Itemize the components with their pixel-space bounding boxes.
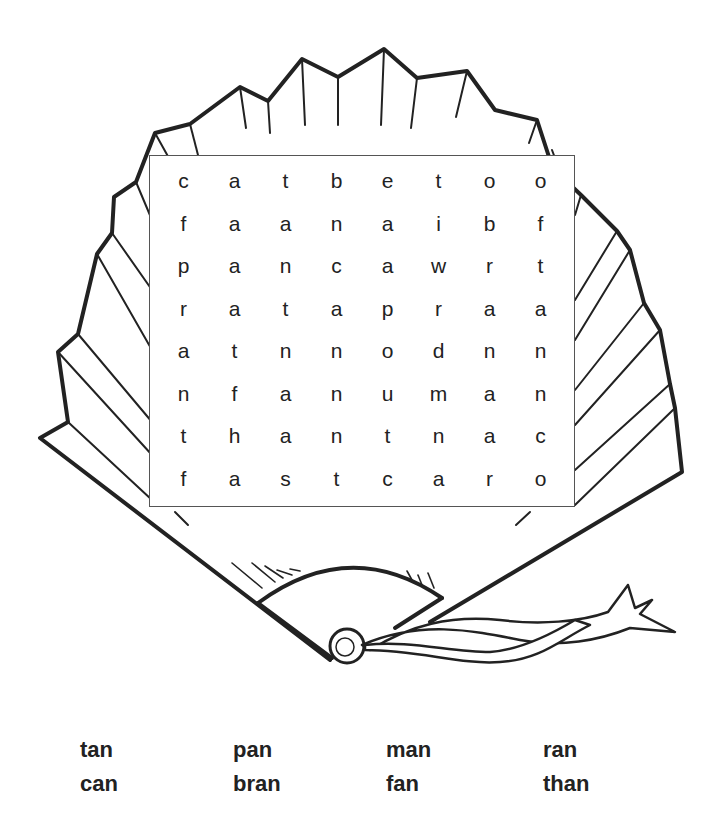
grid-cell: n [515,373,566,416]
grid-cell: a [362,203,413,246]
word-item: than [543,770,643,798]
grid-cell: r [464,458,515,501]
grid-cell: o [362,330,413,373]
grid-cell: h [209,415,260,458]
grid-cell: t [158,415,209,458]
grid-cell: a [209,160,260,203]
grid-cell: f [158,458,209,501]
grid-cell: a [464,373,515,416]
grid-cell: n [464,330,515,373]
grid-cell: f [158,203,209,246]
grid-cell: f [209,373,260,416]
grid-cell: r [464,245,515,288]
grid-cell: d [413,330,464,373]
grid-cell: r [158,288,209,331]
grid-cell: a [209,458,260,501]
grid-cell: o [464,160,515,203]
grid-cell: n [158,373,209,416]
word-item: ran [543,736,643,764]
grid-cell: p [362,288,413,331]
grid-cell: n [311,330,362,373]
grid-cell: b [311,160,362,203]
grid-cell: t [362,415,413,458]
grid-cell: t [209,330,260,373]
grid-cell: a [413,458,464,501]
word-item: man [386,736,543,764]
grid-cell: a [311,288,362,331]
grid-cell: a [260,415,311,458]
grid-cell: o [515,458,566,501]
grid-cell: c [362,458,413,501]
grid-cell: c [515,415,566,458]
word-search-grid: catbetoofaanaibfpancawrtratapraaatnnodnn… [149,155,575,507]
grid-cell: f [515,203,566,246]
grid-cell: a [362,245,413,288]
grid-cell: a [260,373,311,416]
grid-cell: n [515,330,566,373]
grid-cell: n [311,203,362,246]
grid-cell: t [515,245,566,288]
grid-cell: a [158,330,209,373]
grid-cell: o [515,160,566,203]
grid-cell: c [158,160,209,203]
grid-cell: c [311,245,362,288]
grid-cell: t [260,288,311,331]
grid-cell: b [464,203,515,246]
grid-cell: s [260,458,311,501]
grid-cell: n [311,373,362,416]
grid-cell: n [260,245,311,288]
grid-cell: a [209,245,260,288]
grid-cell: e [362,160,413,203]
grid-cell: t [260,160,311,203]
word-item: pan [233,736,386,764]
grid-cell: u [362,373,413,416]
grid-cell: a [209,203,260,246]
word-item: bran [233,770,386,798]
word-list: tan pan man ran can bran fan than [80,736,640,798]
grid-cell: a [464,288,515,331]
grid-cell: i [413,203,464,246]
grid-cell: a [464,415,515,458]
word-item: can [80,770,233,798]
grid-cell: a [515,288,566,331]
grid-cell: m [413,373,464,416]
grid-cell: n [413,415,464,458]
letter-grid: catbetoofaanaibfpancawrtratapraaatnnodnn… [150,156,574,506]
grid-cell: a [260,203,311,246]
grid-cell: r [413,288,464,331]
grid-cell: n [260,330,311,373]
word-item: fan [386,770,543,798]
grid-cell: n [311,415,362,458]
word-item: tan [80,736,233,764]
grid-cell: t [311,458,362,501]
grid-cell: t [413,160,464,203]
grid-cell: p [158,245,209,288]
grid-cell: a [209,288,260,331]
grid-cell: w [413,245,464,288]
rivet-icon [330,629,364,663]
